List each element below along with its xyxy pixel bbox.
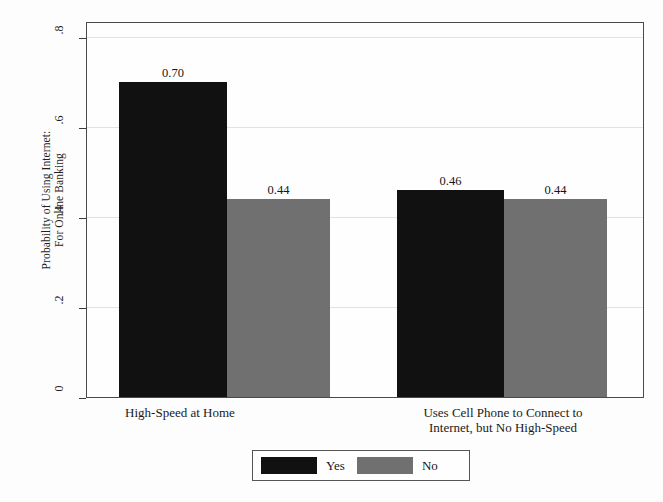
y-tick-mark-1 <box>79 308 86 309</box>
y-tick-label-3: .6 <box>52 116 67 142</box>
legend-swatch-yes-icon <box>261 457 317 474</box>
x-group-label-0-line-1: High-Speed at Home <box>110 405 250 420</box>
bar-group-0-no <box>227 199 330 397</box>
y-tick-mark-2 <box>79 218 86 219</box>
bar-group-1-yes <box>397 190 504 397</box>
gridline-0.8 <box>87 37 643 38</box>
bar-group-0-yes <box>119 82 227 397</box>
bar-chart-figure: Probability of Using Internet: For Onlin… <box>0 0 663 502</box>
bar-value-group-0-yes: 0.70 <box>119 66 227 81</box>
legend-label-yes: Yes <box>326 458 345 474</box>
x-group-label-1: Uses Cell Phone to Connect to Internet, … <box>378 405 628 435</box>
legend-entry-no: No <box>349 451 442 480</box>
y-tick-mark-4 <box>79 38 86 39</box>
x-group-label-1-line-1: Uses Cell Phone to Connect to <box>378 405 628 420</box>
y-tick-label-1: .2 <box>52 296 67 322</box>
y-tick-mark-0 <box>79 398 86 399</box>
bar-value-group-1-yes: 0.46 <box>397 174 504 189</box>
y-tick-mark-3 <box>79 128 86 129</box>
y-tick-label-4: .8 <box>52 26 67 52</box>
legend-swatch-no-icon <box>357 457 413 474</box>
legend-entry-yes: Yes <box>253 451 349 480</box>
chart-legend: Yes No <box>252 450 470 481</box>
y-tick-label-0: 0 <box>52 386 67 412</box>
plot-area: 0.70 0.44 0.46 0.44 <box>86 22 644 398</box>
x-group-label-1-line-2: Internet, but No High-Speed <box>378 420 628 435</box>
y-tick-label-2: .4 <box>52 206 67 232</box>
bar-value-group-1-no: 0.44 <box>504 183 607 198</box>
x-group-label-0: High-Speed at Home <box>110 405 250 420</box>
bar-group-1-no <box>504 199 607 397</box>
bar-value-group-0-no: 0.44 <box>227 183 330 198</box>
legend-label-no: No <box>422 458 438 474</box>
